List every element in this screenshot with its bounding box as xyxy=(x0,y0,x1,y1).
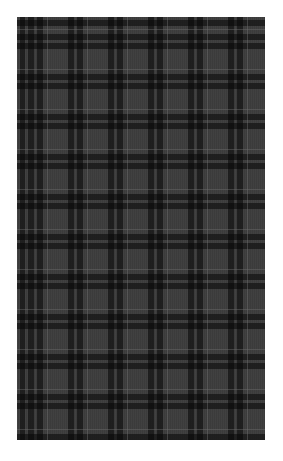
plaid-fabric-swatch xyxy=(17,17,265,440)
